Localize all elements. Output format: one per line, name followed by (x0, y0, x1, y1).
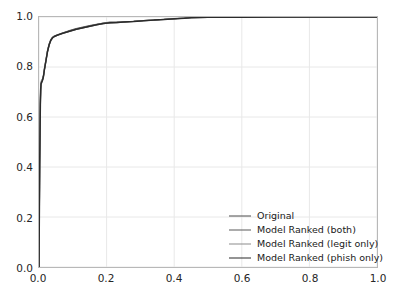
legend-label: Model Ranked (both) (257, 224, 356, 236)
legend-item: Model Ranked (legit only) (229, 237, 379, 251)
figure-canvas: 0.00.20.40.60.81.0 0.00.20.40.60.81.0 Or… (0, 0, 394, 300)
legend-item: Original (229, 209, 379, 223)
x-tick-label: 0.2 (86, 272, 126, 284)
legend-line-swatch (229, 253, 251, 264)
legend-label: Original (257, 210, 294, 222)
y-axis-tick-labels: 0.00.20.40.60.81.0 (0, 16, 33, 268)
x-tick-label: 0.6 (222, 272, 262, 284)
chart-legend: OriginalModel Ranked (both)Model Ranked … (229, 209, 379, 265)
legend-item: Model Ranked (phish only) (229, 251, 379, 265)
legend-line-swatch (229, 211, 251, 222)
legend-line-swatch (229, 239, 251, 250)
x-tick-label: 0.0 (18, 272, 58, 284)
y-tick-label: 0.6 (3, 111, 33, 123)
y-tick-label: 1.0 (3, 10, 33, 22)
legend-label: Model Ranked (legit only) (257, 238, 378, 250)
x-tick-label: 0.4 (154, 272, 194, 284)
legend-line-swatch (229, 225, 251, 236)
y-tick-label: 0.2 (3, 212, 33, 224)
legend-item: Model Ranked (both) (229, 223, 379, 237)
x-axis-tick-labels: 0.00.20.40.60.81.0 (38, 272, 378, 288)
y-tick-label: 0.4 (3, 161, 33, 173)
x-tick-label: 1.0 (358, 272, 394, 284)
x-tick-label: 0.8 (290, 272, 330, 284)
y-tick-label: 0.8 (3, 60, 33, 72)
legend-label: Model Ranked (phish only) (257, 252, 383, 264)
